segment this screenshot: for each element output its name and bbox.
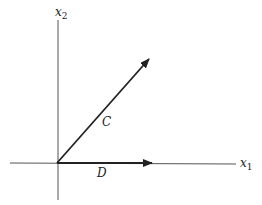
vector-c-label: C (102, 115, 111, 129)
vector-d-label: D (96, 166, 107, 180)
x1-axis-label: x1 (240, 156, 253, 172)
vector-diagram: x2 x1 C D (0, 0, 262, 205)
vector-c (57, 59, 149, 163)
x2-axis-label: x2 (55, 5, 68, 21)
